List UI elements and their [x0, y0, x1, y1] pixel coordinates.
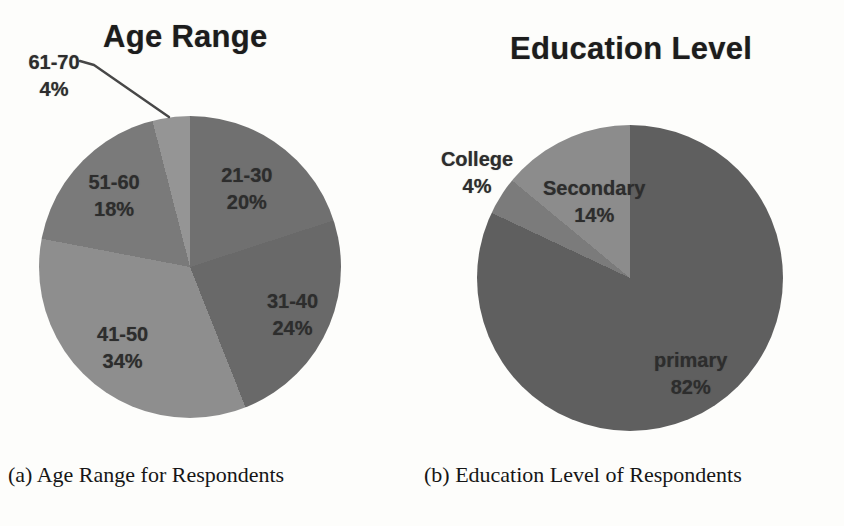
education-level-chart-title: Education Level	[510, 31, 752, 67]
pie-slice-label: 41-5034%	[97, 321, 148, 375]
figure-caption-a: (a) Age Range for Respondents	[8, 462, 284, 488]
age-range-chart-title: Age Range	[103, 19, 268, 55]
education-level-pie: primary82%Secondary14%	[477, 125, 783, 431]
age-slice-61-70-label-text: 61-70	[28, 49, 79, 76]
age-range-pie: 21-3020%31-4024%41-5034%51-6018%	[39, 116, 341, 418]
age-slice-61-70-percent-text: 4%	[28, 76, 79, 103]
education-slice-college-label-text: College	[441, 146, 513, 173]
pie-slice-label: 31-4024%	[267, 288, 318, 342]
pie-slice-label: 21-3020%	[221, 162, 272, 216]
pie-slice-label: 51-6018%	[88, 169, 139, 223]
figure-caption-b: (b) Education Level of Respondents	[424, 462, 742, 488]
education-slice-college-outside-label: College 4%	[441, 146, 513, 200]
pie-slice-label: Secondary14%	[543, 175, 645, 229]
pie-slice-label: primary82%	[654, 347, 727, 401]
age-range-pie-fill	[39, 116, 341, 418]
scanned-figure-page: Age Range Education Level 21-3020%31-402…	[0, 0, 844, 526]
education-level-pie-fill	[477, 125, 783, 431]
education-slice-college-percent-text: 4%	[441, 173, 513, 200]
age-slice-61-70-outside-label: 61-70 4%	[28, 49, 79, 103]
